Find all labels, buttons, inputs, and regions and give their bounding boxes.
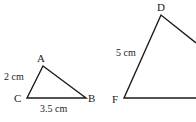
- vertex-label-d: D: [157, 1, 165, 13]
- vertex-label-a: A: [37, 52, 45, 64]
- triangle-abc: A C B 2 cm 3.5 cm: [4, 52, 95, 114]
- triangle-def: D F 5 cm: [112, 1, 196, 105]
- triangle-abc-shape: [27, 66, 86, 98]
- side-label-fd: 5 cm: [116, 47, 136, 58]
- side-label-cb: 3.5 cm: [40, 103, 67, 114]
- vertex-label-b: B: [88, 92, 95, 104]
- side-label-ca: 2 cm: [4, 71, 24, 82]
- vertex-label-c: C: [14, 92, 21, 104]
- similar-triangles-diagram: A C B 2 cm 3.5 cm D F 5 cm: [0, 0, 196, 122]
- vertex-label-f: F: [112, 93, 118, 105]
